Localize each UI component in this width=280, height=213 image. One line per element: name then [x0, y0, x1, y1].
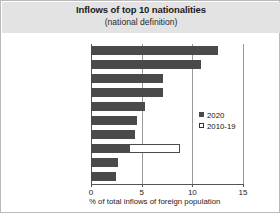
x-axis-tick-label: 0 — [89, 188, 93, 197]
bar-2020 — [91, 116, 137, 125]
bar-row: France — [91, 170, 243, 184]
x-axis-tick-label: 10 — [188, 188, 197, 197]
bar-2020 — [91, 144, 130, 153]
chart-title: Inflows of top 10 nationalities — [2, 4, 280, 15]
bar-2020 — [91, 88, 163, 97]
x-axis-tick — [142, 184, 143, 187]
x-axis-line — [91, 184, 243, 185]
x-axis-title: % of total inflows of foreign population — [89, 197, 220, 206]
x-axis-tick — [91, 184, 92, 187]
bar-2020 — [91, 158, 118, 167]
gridline — [243, 44, 244, 184]
x-axis-tick-label: 5 — [139, 188, 143, 197]
x-axis-tick-label: 15 — [239, 188, 248, 197]
legend-swatch-2010-19-icon — [199, 123, 204, 128]
bar-row: Romania — [91, 142, 243, 156]
legend-item-2020: 2020 — [199, 106, 236, 117]
chart-legend: 2020 2010-19 — [199, 106, 236, 128]
chart-figure: Inflows of top 10 nationalities (nationa… — [0, 0, 280, 213]
x-axis-tick — [243, 184, 244, 187]
chart-title-banner: Inflows of top 10 nationalities (nationa… — [2, 2, 280, 33]
bar-2020 — [91, 172, 116, 181]
legend-item-2010-19: 2010-19 — [199, 117, 236, 128]
bar-2020 — [91, 74, 163, 83]
bar-row: United Kingdom — [91, 86, 243, 100]
bar-2020 — [91, 130, 135, 139]
bar-row: Morocco — [91, 58, 243, 72]
chart-subtitle: (national definition) — [2, 17, 280, 27]
bar-row: Colombia — [91, 44, 243, 58]
bar-2020 — [91, 46, 218, 55]
legend-label-2010-19: 2010-19 — [207, 122, 236, 131]
x-axis-tick — [192, 184, 193, 187]
bar-2020 — [91, 102, 145, 111]
bar-2020 — [91, 60, 201, 69]
bar-row: Venezuela — [91, 72, 243, 86]
bar-row: Argentina — [91, 156, 243, 170]
